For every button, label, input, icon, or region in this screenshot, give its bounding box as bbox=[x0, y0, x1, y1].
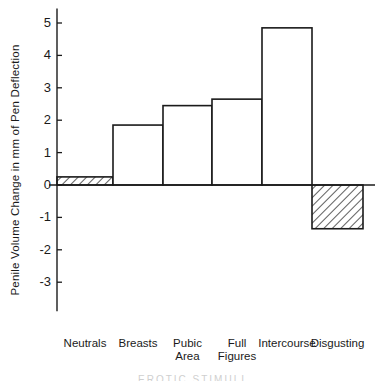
y-axis-tick-label: 3 bbox=[29, 80, 51, 95]
bar bbox=[57, 177, 113, 185]
y-axis-tick-label: 2 bbox=[29, 112, 51, 127]
y-axis-tick-label: 0 bbox=[29, 177, 51, 192]
x-axis-category-label-line2: Figures bbox=[199, 350, 275, 363]
y-axis-tick-label: 1 bbox=[29, 145, 51, 160]
y-axis-tick-label: -2 bbox=[29, 242, 51, 257]
y-axis-tick-label: -3 bbox=[29, 274, 51, 289]
bar bbox=[113, 125, 163, 185]
bars-group bbox=[57, 28, 363, 229]
y-axis-tick-label: 4 bbox=[29, 47, 51, 62]
y-axis-tick-label: 5 bbox=[29, 15, 51, 30]
chart-plot-area bbox=[0, 0, 384, 381]
chart-figure: Penile Volume Change in mm of Pen Deflec… bbox=[0, 0, 384, 381]
x-axis-caption: EROTIC STIMULI bbox=[0, 374, 384, 381]
bar bbox=[163, 106, 212, 185]
x-axis-category-label-line1: Pubic bbox=[173, 337, 202, 349]
y-axis-tick-label: -1 bbox=[29, 209, 51, 224]
x-axis-category-label-line1: Disgusting bbox=[311, 337, 365, 349]
x-axis-category-label-line1: Full bbox=[228, 337, 247, 349]
bar bbox=[262, 28, 312, 185]
x-axis-category-label: Disgusting bbox=[300, 337, 376, 350]
bar bbox=[312, 185, 363, 229]
bar bbox=[212, 99, 262, 185]
